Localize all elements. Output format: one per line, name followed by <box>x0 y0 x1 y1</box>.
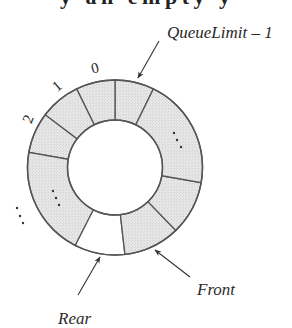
front-pointer: Front <box>155 250 236 299</box>
ring-segments <box>27 80 202 255</box>
queuelimit-arrow-icon <box>138 41 159 78</box>
rear-arrow-icon <box>78 257 100 295</box>
rear-pointer: Rear <box>57 257 100 328</box>
front-arrow-icon <box>155 250 190 277</box>
queuelimit-label: QueueLimit – 1 <box>167 23 273 42</box>
index-label-0: 0 <box>89 59 100 76</box>
outer-left-ellipsis-icon <box>16 207 24 224</box>
circular-queue-diagram: y an empty y 0 1 2 QueueLimit – 1 Rear F… <box>0 0 292 328</box>
inner-circle <box>68 120 163 215</box>
index-label-2: 2 <box>19 113 37 126</box>
queuelimit-pointer: QueueLimit – 1 <box>138 23 273 78</box>
front-label: Front <box>196 280 236 299</box>
index-label-1: 1 <box>49 77 65 94</box>
rear-label: Rear <box>57 309 91 328</box>
ring-segment-slots-right-ellipsis <box>136 89 203 183</box>
cropped-header-text: y an empty y <box>60 0 230 9</box>
